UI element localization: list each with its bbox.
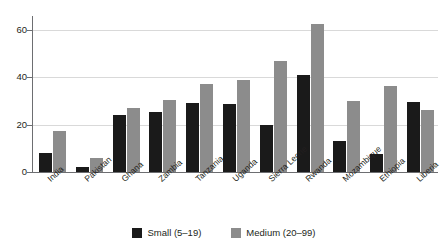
bar-small (39, 153, 52, 172)
y-tick-label: 0 (5, 167, 27, 177)
bar-small (186, 103, 199, 172)
y-tick-label: 40 (5, 72, 27, 82)
bar-group (223, 18, 250, 172)
legend-item-small[interactable]: Small (5–19) (132, 228, 201, 238)
bar-small (260, 125, 273, 172)
bar-small (113, 115, 126, 172)
bar-medium (274, 61, 287, 172)
bar-medium (237, 80, 250, 172)
bar-small (223, 104, 236, 172)
legend-label: Medium (20–99) (246, 228, 315, 238)
bar-small (407, 102, 420, 172)
legend-label: Small (5–19) (147, 228, 201, 238)
bar-chart: 0204060 IndiaPakistanGhanaZambiaTanzania… (0, 0, 448, 251)
bar-group (260, 18, 287, 172)
bar-group (149, 18, 176, 172)
chart-legend: Small (5–19)Medium (20–99) (0, 228, 448, 238)
bar-small (149, 112, 162, 172)
bar-small (333, 141, 346, 172)
bar-group (113, 18, 140, 172)
legend-swatch-icon (132, 228, 142, 238)
legend-swatch-icon (231, 228, 241, 238)
bar-group (39, 18, 66, 172)
bar-group (407, 18, 434, 172)
bar-medium (311, 24, 324, 172)
bar-group (76, 18, 103, 172)
y-tick-label: 60 (5, 25, 27, 35)
y-tick-label: 20 (5, 120, 27, 130)
bar-group (333, 18, 360, 172)
legend-item-medium[interactable]: Medium (20–99) (231, 228, 315, 238)
bar-group (186, 18, 213, 172)
